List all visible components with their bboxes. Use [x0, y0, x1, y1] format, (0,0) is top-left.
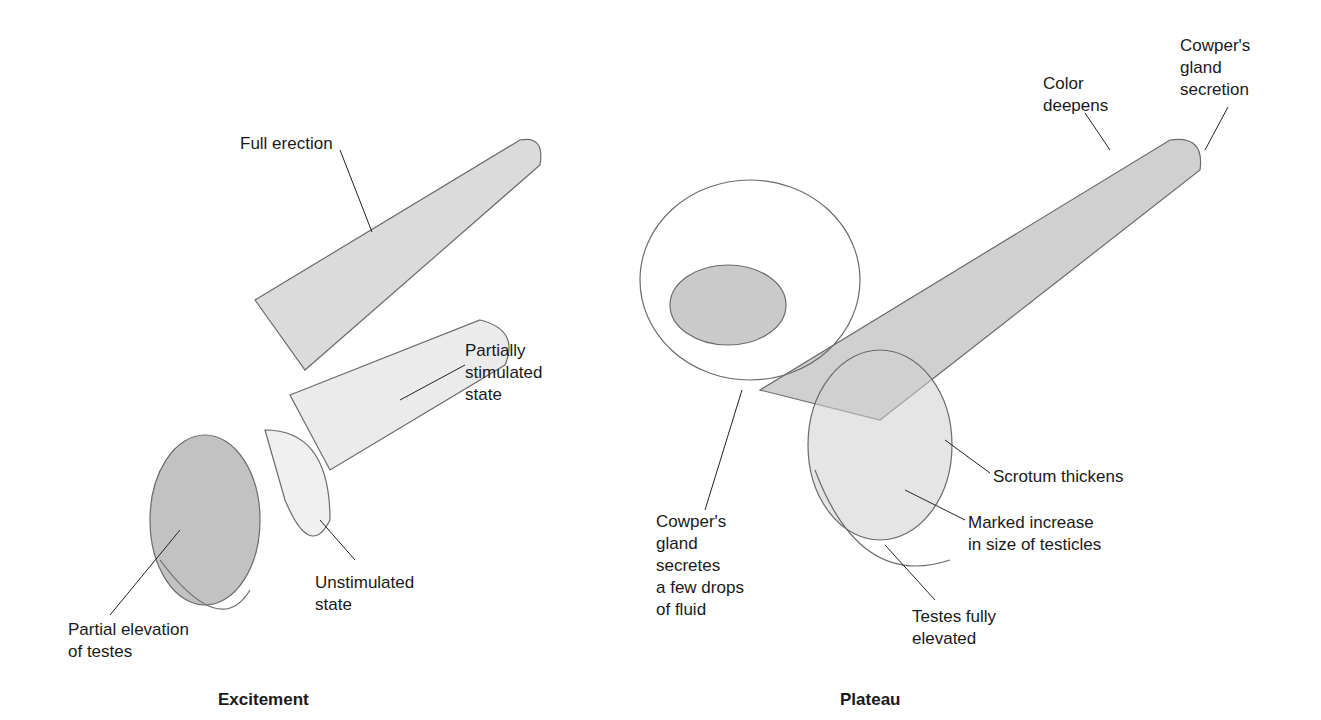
label-full-erection: Full erection: [240, 133, 333, 155]
caption-plateau: Plateau: [840, 690, 900, 710]
label-scrotum-thickens: Scrotum thickens: [993, 466, 1123, 488]
label-cowpers-secretion: Cowper's gland secretion: [1180, 35, 1250, 101]
label-partially-stimulated: Partially stimulated state: [465, 340, 542, 406]
label-testicle-size: Marked increase in size of testicles: [968, 512, 1101, 556]
label-partial-elevation: Partial elevation of testes: [68, 619, 189, 663]
label-unstimulated: Unstimulated state: [315, 572, 414, 616]
label-testes-elevated: Testes fully elevated: [912, 606, 996, 650]
caption-excitement: Excitement: [218, 690, 309, 710]
label-cowpers-fluid: Cowper's gland secretes a few drops of f…: [656, 511, 744, 621]
label-color-deepens: Color deepens: [1043, 73, 1108, 117]
